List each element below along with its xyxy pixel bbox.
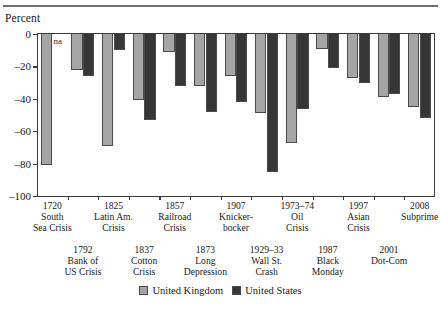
y-axis-tick [33, 196, 38, 197]
x-axis-label-line: Crisis [318, 222, 398, 233]
figure-container: Percent 0–20–40–60–80–100 na 1720SouthSe… [0, 0, 441, 309]
y-axis-tick-label: –20 [0, 61, 31, 71]
bar-uk [194, 34, 205, 86]
bar-uk [255, 34, 266, 113]
bar-us [206, 34, 217, 112]
bar-us [236, 34, 247, 102]
bar-uk [347, 34, 358, 78]
bar-us [328, 34, 339, 68]
bar-us [420, 34, 431, 118]
legend-swatch-us [232, 286, 241, 295]
y-axis-tick-label: –60 [0, 126, 31, 136]
x-axis-label-line: Subprime [380, 211, 441, 222]
bar-us [297, 34, 308, 109]
bar-uk [41, 34, 52, 165]
x-axis-group-label: 2001Dot-Com [349, 244, 429, 266]
top-divider-rule [3, 5, 438, 7]
bar-us [389, 34, 400, 94]
bar-us [267, 34, 278, 172]
plot-bottom-axis [37, 196, 435, 197]
x-axis-label-line: 2008 [380, 200, 441, 211]
legend-item-uk[interactable]: United Kingdom [139, 285, 223, 296]
bar-uk [133, 34, 144, 100]
bar-us [175, 34, 186, 86]
na-annotation: na [54, 36, 63, 46]
bar-us [359, 34, 370, 83]
bar-uk [316, 34, 327, 49]
bar-us [83, 34, 94, 76]
chart-legend: United KingdomUnited States [0, 285, 441, 296]
y-axis-tick-label: –80 [0, 159, 31, 169]
bar-uk [71, 34, 82, 70]
x-axis-label-line: Dot-Com [349, 255, 429, 266]
bar-uk [225, 34, 236, 76]
bar-uk [408, 34, 419, 107]
bar-uk [102, 34, 113, 146]
bar-uk [378, 34, 389, 97]
bar-us [144, 34, 155, 120]
bar-uk [286, 34, 297, 143]
bar-us [114, 34, 125, 50]
legend-swatch-uk [139, 286, 148, 295]
y-axis-tick-label: 0 [0, 29, 31, 39]
x-axis-label-line: Monday [288, 266, 368, 277]
y-axis-title: Percent [5, 12, 40, 24]
legend-label: United States [245, 285, 301, 296]
legend-item-us[interactable]: United States [232, 285, 301, 296]
x-axis-group-label: 2008Subprime [380, 200, 441, 222]
legend-label: United Kingdom [152, 285, 223, 296]
bar-uk [163, 34, 174, 52]
y-axis-tick-label: –40 [0, 94, 31, 104]
plot-area: na [37, 34, 435, 196]
x-axis-label-line: 2001 [349, 244, 429, 255]
